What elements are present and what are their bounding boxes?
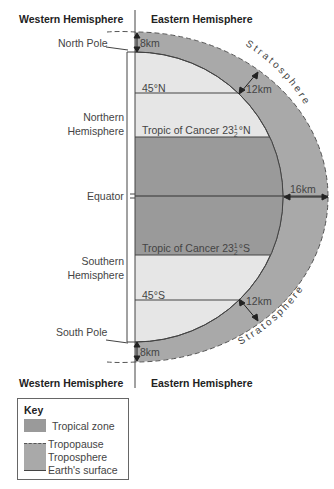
- key-title: Key: [24, 405, 43, 416]
- header-eastern-top: Eastern Hemisphere: [151, 14, 253, 25]
- header-western-bottom: Western Hemisphere: [19, 378, 123, 389]
- north-pole-height: 8km: [140, 38, 160, 49]
- south-pole-label: South Pole: [56, 327, 107, 338]
- tropical-zone-swatch: [24, 419, 46, 432]
- northern-hemisphere-label-1: Northern: [83, 112, 124, 123]
- troposphere-swatch: [24, 443, 46, 471]
- hemisphere-bracket: [127, 52, 135, 342]
- key-troposphere: Troposphere: [48, 452, 107, 463]
- equator-height: 16km: [290, 184, 316, 195]
- header-eastern-bottom: Eastern Hemisphere: [151, 378, 253, 389]
- legend-key: Key Tropical zone Tropopause Troposphere…: [17, 398, 129, 480]
- lat-45s-label: 45°S: [142, 290, 165, 301]
- southern-hemisphere-label-2: Hemisphere: [67, 270, 124, 281]
- north-pole-label: North Pole: [58, 38, 108, 49]
- key-tropopause: Tropopause: [48, 439, 104, 450]
- equator-label: Equator: [87, 191, 124, 202]
- northern-hemisphere-label-2: Hemisphere: [67, 126, 124, 137]
- mid-north-height: 12km: [246, 84, 272, 95]
- lat-45n-label: 45°N: [142, 83, 165, 94]
- tropic-north-label: Tropic of Cancer 2312°N: [142, 124, 251, 138]
- key-earths-surface: Earth's surface: [48, 465, 118, 476]
- southern-hemisphere-label-1: Southern: [81, 256, 124, 267]
- south-pole-height: 8km: [140, 347, 160, 358]
- tropic-south-label: Tropic of Cancer 2312°S: [142, 242, 250, 256]
- mid-south-height: 12km: [246, 296, 272, 307]
- header-western-top: Western Hemisphere: [19, 14, 123, 25]
- key-tropical-zone: Tropical zone: [52, 421, 115, 432]
